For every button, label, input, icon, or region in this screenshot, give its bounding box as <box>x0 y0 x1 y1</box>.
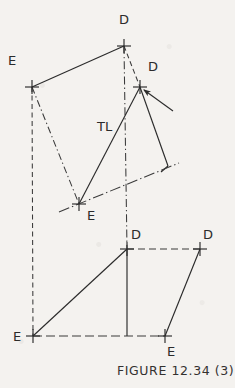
point-marker-E-auxiliary <box>72 197 86 211</box>
label-point-d-top: D <box>119 13 129 26</box>
leader-arrow-to-aux-d <box>144 90 173 111</box>
point-marker-E-bottom-right <box>158 329 172 343</box>
segment-aux-D-to-foot <box>140 87 168 166</box>
label-point-d-auxiliary: D <box>148 60 158 73</box>
label-point-e-bottom-right: E <box>167 345 175 358</box>
figure-page: D E D TL E D D E E FIGURE 12.34 (3) <box>0 0 235 388</box>
segment-projector-left <box>32 87 33 336</box>
label-point-e-left: E <box>8 54 16 67</box>
segment-bottom-DE-diagonal <box>33 249 127 336</box>
point-marker-D-auxiliary <box>133 80 147 94</box>
figure-caption: FIGURE 12.34 (3) <box>117 365 234 378</box>
segment-aux-D-to-E <box>79 87 140 204</box>
label-point-e-bottom-left: E <box>13 330 21 343</box>
point-marker-D-top <box>117 39 131 53</box>
technical-drawing-canvas <box>0 0 235 388</box>
label-true-length: TL <box>97 120 112 133</box>
segment-projector-D-aux <box>124 46 140 87</box>
point-marker-E-left <box>25 80 39 94</box>
label-point-e-auxiliary: E <box>87 209 95 222</box>
label-point-d-bottom-left: D <box>131 228 141 241</box>
segment-bottom-right-DE <box>165 249 200 336</box>
segment-center-line-vertical <box>124 46 127 249</box>
point-marker-D-bottom-right <box>193 242 207 256</box>
segment-top-view-DE <box>32 46 124 87</box>
segment-projector-E-aux <box>32 87 79 204</box>
segment-reference-chain-line <box>59 163 179 212</box>
label-point-d-bottom-right: D <box>203 228 213 241</box>
